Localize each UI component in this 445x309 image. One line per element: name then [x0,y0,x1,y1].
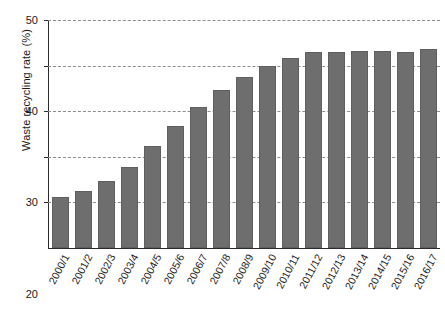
bar-slot [348,20,371,248]
bar-slot [256,20,279,248]
x-axis-tick-label: 2003/4 [114,252,140,286]
bar-slot [95,20,118,248]
bar-slot [49,20,72,248]
y-axis-tick-label: 30 [26,196,38,208]
y-axis-tick: 20 [44,157,48,158]
y-axis-title: Waste recycling rate (%) [20,0,32,190]
bar [351,51,368,248]
bar [213,90,230,248]
x-axis-tick-label: 2006/7 [183,252,209,286]
bar-slot [187,20,210,248]
bar [397,52,414,248]
bar-slot [141,20,164,248]
x-axis-tick-label: 2000/1 [45,252,71,286]
bar-series [49,20,440,248]
bar-slot [72,20,95,248]
y-axis-tick-label: 50 [26,14,38,26]
y-axis-tick: 40 [44,66,48,67]
bar-slot [118,20,141,248]
bar [282,58,299,248]
x-axis-tick-label: 2001/2 [68,252,94,286]
bar-slot [210,20,233,248]
bar-slot [233,20,256,248]
bar [144,146,161,248]
bar [259,66,276,248]
x-axis-tick-label: 2004/5 [137,252,163,286]
x-axis-tick-label: 2005/6 [160,252,186,286]
x-axis-line [48,248,440,249]
bar [167,126,184,248]
y-axis-tick: 30 [44,111,48,112]
bar-slot [279,20,302,248]
bar [98,181,115,248]
x-label-slot: 2016/17 [417,250,440,308]
plot-area: 1020304050 [48,20,440,248]
bar [305,52,322,248]
bar-slot [302,20,325,248]
bar [236,77,253,248]
bar-slot [371,20,394,248]
bar [374,51,391,248]
bar-slot [164,20,187,248]
bar [190,107,207,248]
y-axis-tick: 10 [44,202,48,203]
bar-slot [417,20,440,248]
bar [75,191,92,248]
bar [420,49,437,248]
y-axis-tick: 50 [44,20,48,21]
x-axis-tick-labels: 2000/12001/22002/32003/42004/52005/62006… [49,250,440,308]
bar [328,52,345,248]
x-axis-tick-label: 2007/8 [206,252,232,286]
bar [52,197,69,248]
y-axis-tick-label: 40 [26,105,38,117]
bar-slot [325,20,348,248]
bar [121,167,138,248]
bar-slot [394,20,417,248]
y-axis-tick-label: 20 [26,288,38,300]
x-axis-tick-label: 2002/3 [91,252,117,286]
chart-figure: Waste recycling rate (%) 1020304050 2000… [0,0,445,309]
